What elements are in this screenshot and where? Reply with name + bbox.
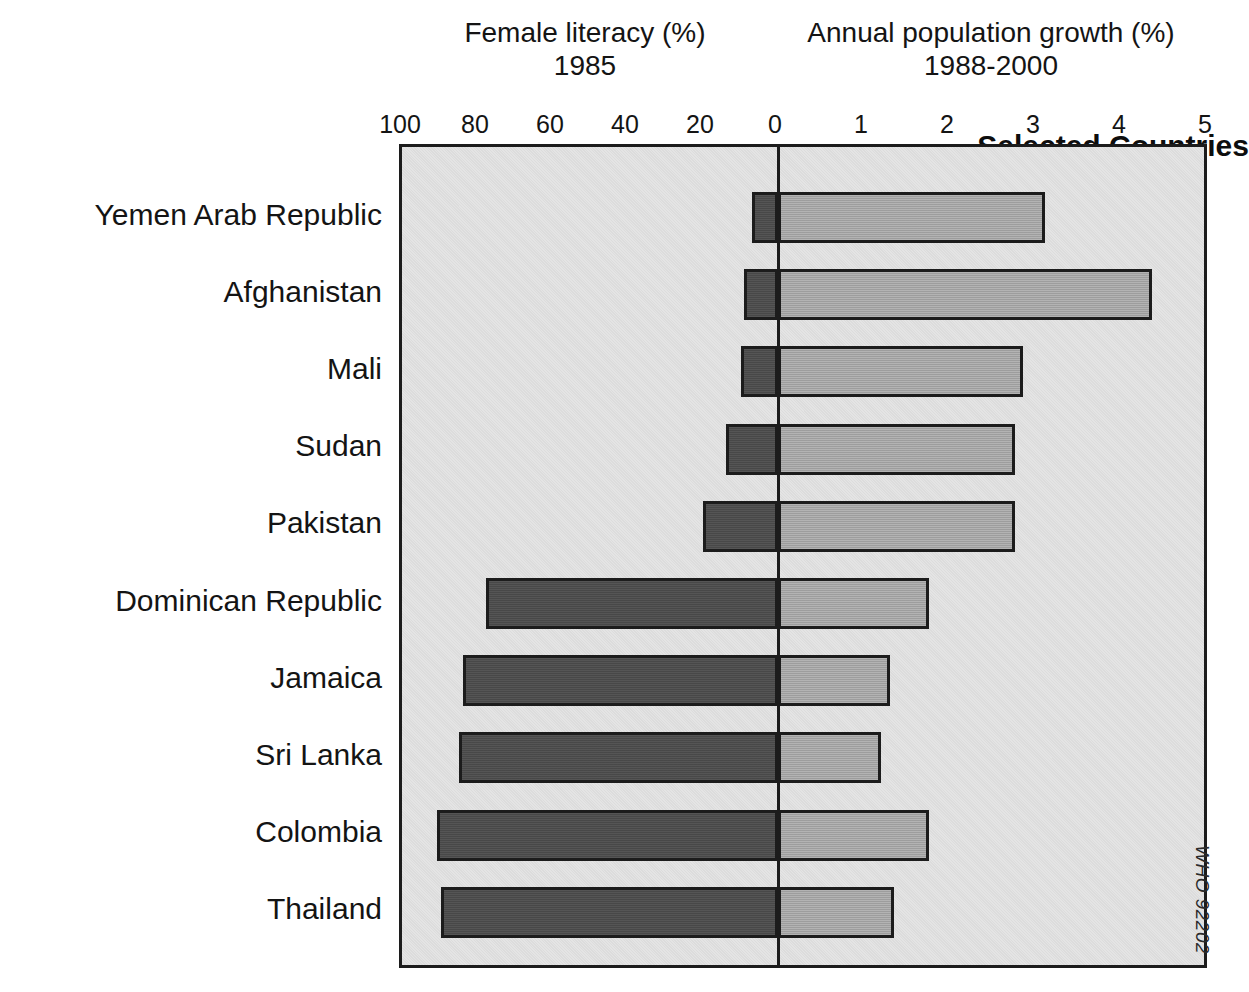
category-label-column: Yemen Arab RepublicAfghanistanMaliSudanP… xyxy=(0,144,382,968)
tick-literacy-20: 20 xyxy=(686,110,714,139)
category-label: Yemen Arab Republic xyxy=(0,198,382,232)
bar-growth xyxy=(778,501,1015,552)
bar-literacy xyxy=(459,732,778,783)
bar-growth xyxy=(778,269,1152,320)
tick-literacy-60: 60 xyxy=(536,110,564,139)
left-axis-title: Female literacy (%) 1985 xyxy=(395,16,775,82)
category-label: Sri Lanka xyxy=(0,738,382,772)
bar-literacy xyxy=(437,810,778,861)
bar-growth xyxy=(778,192,1045,243)
tick-literacy-100: 100 xyxy=(379,110,421,139)
bar-growth xyxy=(778,810,929,861)
category-label: Jamaica xyxy=(0,661,382,695)
category-label: Mali xyxy=(0,352,382,386)
bar-literacy xyxy=(703,501,778,552)
category-label: Thailand xyxy=(0,892,382,926)
right-axis-title: Annual population growth (%) 1988-2000 xyxy=(775,16,1207,82)
category-label: Colombia xyxy=(0,815,382,849)
category-label: Pakistan xyxy=(0,506,382,540)
bar-literacy xyxy=(486,578,779,629)
category-label: Sudan xyxy=(0,429,382,463)
category-label: Dominican Republic xyxy=(0,584,382,618)
bar-growth xyxy=(778,732,881,783)
left-axis-title-line1: Female literacy (%) xyxy=(464,17,705,48)
bar-literacy xyxy=(741,346,779,397)
category-label: Afghanistan xyxy=(0,275,382,309)
bar-literacy xyxy=(726,424,779,475)
tick-literacy-80: 80 xyxy=(461,110,489,139)
bar-literacy xyxy=(463,655,778,706)
bar-growth xyxy=(778,424,1015,475)
tick-growth-2: 2 xyxy=(940,110,954,139)
bar-literacy xyxy=(744,269,778,320)
tick-growth-1: 1 xyxy=(854,110,868,139)
bar-growth xyxy=(778,887,894,938)
left-axis-title-line2: 1985 xyxy=(395,49,775,82)
plot-area xyxy=(399,144,1207,968)
bar-growth xyxy=(778,578,929,629)
right-axis-title-line1: Annual population growth (%) xyxy=(807,17,1174,48)
bar-literacy xyxy=(752,192,778,243)
who-credit-label: WHO 92202 xyxy=(1191,845,1213,954)
right-axis-title-line2: 1988-2000 xyxy=(775,49,1207,82)
bar-growth xyxy=(778,655,890,706)
bar-growth xyxy=(778,346,1023,397)
bar-literacy xyxy=(441,887,779,938)
tick-literacy-0: 0 xyxy=(768,110,782,139)
tick-literacy-40: 40 xyxy=(611,110,639,139)
